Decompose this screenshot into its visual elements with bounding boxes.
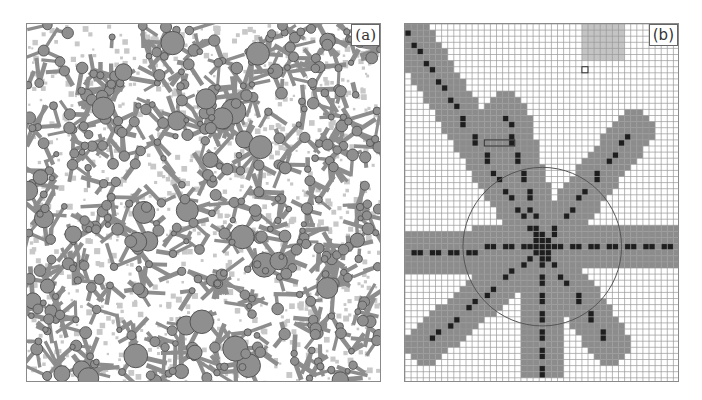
particle-field-canvas	[27, 24, 380, 381]
panel-a-particle-field: (a)	[26, 23, 381, 382]
lattice-grid-canvas	[405, 24, 678, 381]
panel-b-lattice-star: (b)	[404, 23, 679, 382]
panel-a-label: (a)	[351, 24, 380, 46]
panel-b-label: (b)	[649, 24, 678, 46]
